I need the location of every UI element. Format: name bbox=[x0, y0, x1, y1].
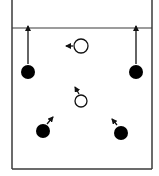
play-diagram bbox=[0, 0, 159, 176]
defensive-player-marker bbox=[74, 39, 88, 53]
offensive-player-marker bbox=[114, 126, 128, 140]
court-outline bbox=[12, 0, 152, 169]
defensive-player-marker bbox=[75, 95, 87, 107]
offensive-player-marker bbox=[129, 65, 143, 79]
arrow-icon bbox=[47, 117, 53, 124]
offensive-player-marker bbox=[21, 65, 35, 79]
players bbox=[21, 39, 143, 140]
arrow-icon bbox=[112, 119, 117, 125]
offensive-player-marker bbox=[36, 124, 50, 138]
arrow-icon bbox=[75, 87, 79, 94]
